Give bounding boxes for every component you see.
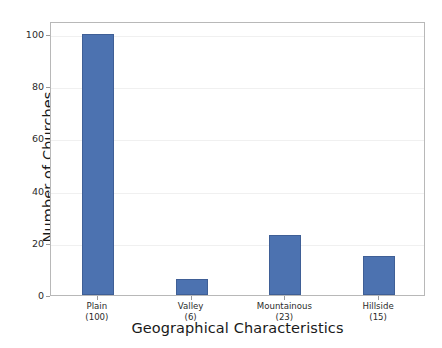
y-tick-mark — [46, 192, 50, 193]
y-tick-mark — [46, 244, 50, 245]
x-tick-mark — [378, 296, 379, 300]
x-tick-category: Mountainous — [238, 301, 332, 312]
bar-mountainous — [269, 235, 301, 295]
plot-area — [50, 22, 425, 296]
y-tick-mark — [46, 87, 50, 88]
y-tick-label: 40 — [32, 187, 44, 197]
x-tick-mark — [97, 296, 98, 300]
x-axis-title: Geographical Characteristics — [50, 320, 425, 336]
x-tick-category: Valley — [144, 301, 238, 312]
y-tick-mark — [46, 296, 50, 297]
y-tick-label: 0 — [38, 291, 44, 301]
x-tick-mark — [191, 296, 192, 300]
plot-inner — [51, 23, 424, 295]
y-tick-label: 20 — [32, 239, 44, 249]
x-tick-category: Plain — [50, 301, 144, 312]
y-tick-mark — [46, 35, 50, 36]
y-tick-label: 100 — [26, 30, 44, 40]
chart-figure: Number of Churches 020406080100 Plain(10… — [0, 0, 442, 348]
y-tick-label: 60 — [32, 134, 44, 144]
x-tick-mark — [284, 296, 285, 300]
y-tick-mark — [46, 139, 50, 140]
bar-plain — [82, 34, 114, 295]
x-tick-category: Hillside — [331, 301, 425, 312]
bar-valley — [176, 279, 208, 295]
bar-hillside — [363, 256, 395, 295]
y-tick-label: 80 — [32, 82, 44, 92]
